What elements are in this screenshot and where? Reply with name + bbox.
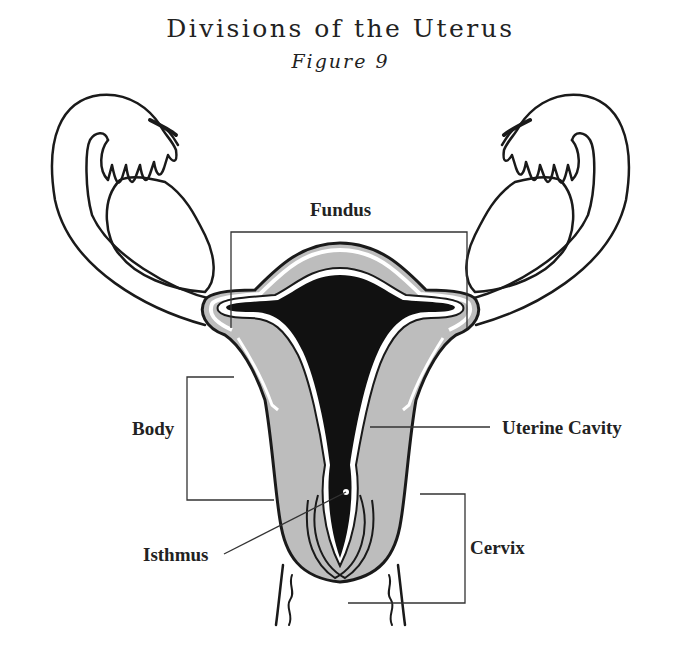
vagina-left-wall	[276, 565, 283, 625]
label-uterine-cavity: Uterine Cavity	[502, 417, 622, 439]
vagina-right-wall	[398, 565, 405, 625]
right-ovary	[466, 177, 573, 292]
label-cervix: Cervix	[470, 537, 525, 559]
label-body: Body	[132, 418, 174, 440]
body-bracket	[187, 377, 274, 500]
right-fimbriae	[502, 125, 579, 182]
label-fundus: Fundus	[310, 199, 371, 221]
left-fimbriae	[101, 125, 178, 182]
label-isthmus: Isthmus	[143, 544, 208, 566]
uterus-diagram	[0, 0, 681, 661]
left-ovary	[107, 177, 214, 292]
